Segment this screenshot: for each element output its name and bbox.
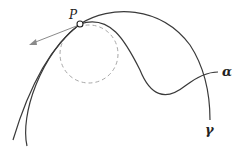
- tangent-arrow: [29, 25, 79, 45]
- diagram-canvas: P α γ: [0, 0, 238, 150]
- point-p-marker: [77, 21, 83, 27]
- alpha-label: α: [222, 64, 232, 79]
- curve-alpha: [13, 22, 218, 140]
- curve-gamma: [26, 12, 210, 146]
- gamma-label: γ: [205, 122, 215, 137]
- point-p-label: P: [68, 8, 78, 22]
